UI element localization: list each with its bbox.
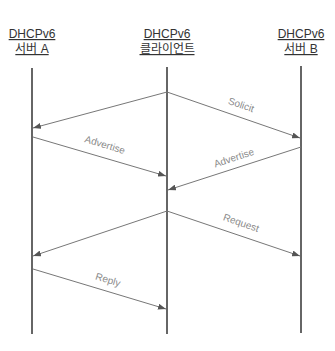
- sequence-diagram: DHCPv6 서버 A DHCPv6 클라이언트 DHCPv6 서버 B Sol…: [0, 0, 335, 351]
- label-advertise-b: Advertise: [212, 146, 255, 169]
- participant-server-a: DHCPv6 서버 A: [9, 27, 56, 56]
- participant-c-line2: 클라이언트: [140, 42, 195, 56]
- participant-c-line1: DHCPv6: [144, 27, 191, 41]
- label-reply: Reply: [94, 271, 122, 289]
- arrow-request-to-a: [33, 211, 167, 256]
- participant-a-line2: 서버 A: [15, 42, 48, 56]
- label-request: Request: [222, 211, 261, 234]
- arrow-solicit-to-a: [33, 92, 167, 128]
- participant-b-line2: 서버 B: [284, 42, 317, 56]
- participant-b-line1: DHCPv6: [278, 27, 325, 41]
- label-solicit: Solicit: [227, 95, 256, 114]
- participant-client: DHCPv6 클라이언트: [140, 27, 195, 56]
- label-advertise-a: Advertise: [83, 133, 126, 156]
- participant-a-line1: DHCPv6: [9, 27, 56, 41]
- participant-server-b: DHCPv6 서버 B: [278, 27, 325, 56]
